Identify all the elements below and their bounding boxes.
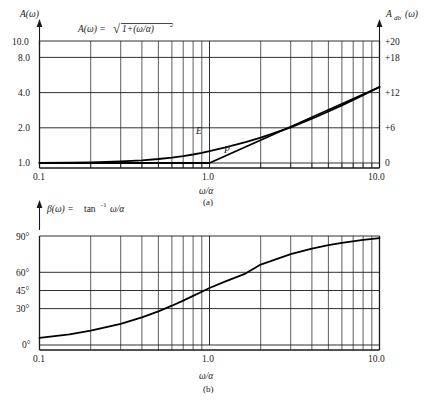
panel-a-equation: A(ω) = √ 1+(ω/α) 2 [77,21,174,36]
panel-a-ytick-right-3: +6 [385,123,395,133]
panel-b-equation: β(ω) = tan -1 ω/α [46,201,125,215]
panel-b-caption: (b) [203,384,214,394]
panel-a-x-axis-label: ω/α [199,186,214,196]
panel-a-y-axis-right-label: A db (ω) [385,9,418,22]
panel-a-ytick-right-2: +12 [385,88,400,98]
panel-a-grid-vertical [91,41,372,168]
panel-b-xtick-2: 10.0 [368,354,385,364]
panel-b-ytick-1: 60° [16,268,30,278]
panel-b-xtick-0: 0.1 [33,354,45,364]
panel-a-xtick-0: 0.1 [33,172,45,182]
panel-b-x-axis-label: ω/α [199,371,214,381]
panel-a-y-axis-right-label-sub: db [394,14,402,22]
panel-a: A(ω) A db (ω) A(ω) = √ 1+(ω/α) 2 [12,9,418,207]
panel-a-ytick-left-3: 2.0 [18,123,30,133]
panel-a-ytick-right-0: +20 [385,37,400,47]
panel-a-y-ticklabels-right: +20 +18 +12 +6 0 [385,37,400,168]
panel-a-y-axis-right-label-main: A [385,9,392,19]
panel-a-ytick-left-0: 10.0 [12,37,29,47]
panel-a-equation-radical: √ [113,21,121,36]
panel-a-x-ticklabels: 0.1 1.0 10.0 [33,172,385,182]
panel-b-ytick-4: 0° [22,340,31,350]
panel-b-x-ticklabels: 0.1 1.0 10.0 [33,354,385,364]
panel-a-y-axis-left-label: A(ω) [19,9,39,20]
panel-b-equation-lhs: β(ω) = [46,204,74,215]
panel-a-ytick-left-2: 4.0 [18,88,30,98]
panel-b-axis-arrow [37,200,43,230]
panel-b-y-ticklabels: 90° 60° 45° 30° 0° [16,232,31,350]
panel-a-xtick-2: 10.0 [368,172,385,182]
panel-a-y-axis-right-label-tail: (ω) [405,9,418,20]
panel-b-x-tickmarks [91,345,372,350]
panel-b-ytick-3: 30° [16,304,30,314]
panel-a-ytick-right-4: 0 [385,158,390,168]
panel-b-xtick-1: 1.0 [202,354,214,364]
panel-b-ytick-0: 90° [16,232,30,242]
panel-a-equation-radicand: 1+(ω/α) [122,24,154,35]
figure-svg: A(ω) A db (ω) A(ω) = √ 1+(ω/α) 2 [0,0,425,403]
panel-b-ytick-2: 45° [16,286,30,296]
panel-a-ytick-right-1: +18 [385,53,400,63]
panel-a-y-ticklabels-left: 10.0 8.0 4.0 2.0 1.0 [12,37,30,168]
panel-b-equation-exponent: -1 [101,201,106,208]
panel-a-caption: (a) [203,197,213,207]
panel-a-equation-lhs: A(ω) = [77,24,106,35]
panel-a-ytick-left-4: 1.0 [18,158,30,168]
panel-a-curve-label-E: E [195,126,202,136]
panel-a-curve-label-P: P [223,145,230,155]
panel-a-ytick-left-1: 8.0 [18,53,30,63]
panel-b-equation-arg: ω/α [110,204,125,214]
panel-b: β(ω) = tan -1 ω/α [16,200,385,394]
panel-b-equation-fn: tan [84,204,96,214]
bode-plot-figure: A(ω) A db (ω) A(ω) = √ 1+(ω/α) 2 [0,0,425,403]
panel-a-equation-exponent: 2 [170,21,174,28]
panel-a-xtick-1: 1.0 [202,172,214,182]
